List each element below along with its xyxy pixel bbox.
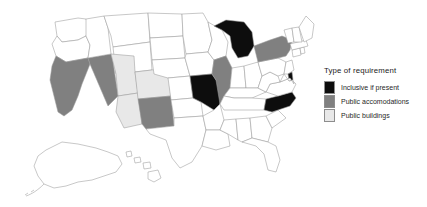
legend: Type of requirement Inclusive if present…: [321, 66, 427, 122]
legend-swatch-inclusive: [324, 81, 335, 94]
legend-label-inclusive: Inclusive if present: [341, 84, 399, 91]
state-new-mexico: [138, 96, 174, 129]
state-iowa: [185, 52, 214, 76]
legend-swatch-buildings: [324, 109, 335, 122]
legend-item-buildings: Public buildings: [321, 108, 427, 122]
legend-title: Type of requirement: [324, 66, 427, 75]
state-california: [50, 56, 90, 116]
state-hawaii-oahu: [134, 157, 141, 163]
map-figure: Type of requirement Inclusive if present…: [0, 0, 427, 207]
state-florida: [242, 138, 280, 172]
state-kentucky: [224, 88, 266, 98]
legend-swatch-accommodations: [324, 95, 335, 108]
state-alaska: [34, 142, 122, 188]
state-south-dakota: [150, 36, 185, 60]
map-svg: [0, 0, 318, 207]
state-hawaii-big-island: [148, 170, 161, 182]
alaska-aleutian-chain: [25, 184, 44, 196]
state-indiana: [230, 66, 246, 88]
state-nebraska: [152, 58, 190, 78]
state-new-york: [254, 36, 292, 62]
us-choropleth-map: [0, 0, 318, 207]
state-oklahoma: [171, 98, 203, 118]
legend-label-accommodations: Public accomodations: [341, 98, 409, 105]
legend-label-buildings: Public buildings: [341, 112, 390, 119]
legend-item-inclusive: Inclusive if present: [321, 80, 427, 94]
state-tennessee: [220, 96, 266, 110]
legend-item-accommodations: Public accomodations: [321, 94, 427, 108]
state-montana: [104, 13, 150, 47]
state-alabama: [236, 118, 252, 142]
state-kansas: [168, 76, 193, 100]
state-north-dakota: [148, 13, 183, 38]
state-hawaii-maui: [143, 162, 151, 169]
state-minnesota: [182, 13, 212, 54]
state-hawaii-kauai: [126, 151, 132, 157]
